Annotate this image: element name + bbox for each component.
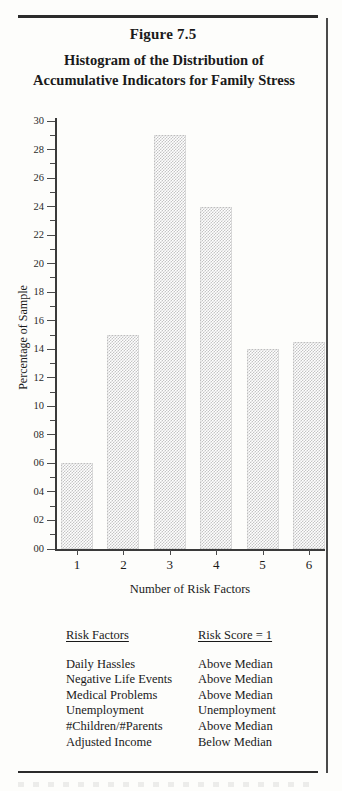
y-tick-minor	[50, 220, 55, 221]
y-tick-minor	[50, 477, 55, 478]
figure-page: Figure 7.5 Histogram of the Distribution…	[0, 0, 342, 791]
histogram-bar	[247, 349, 279, 549]
x-tick	[77, 550, 78, 555]
y-tick-major	[47, 263, 55, 264]
table-row: Adjusted IncomeBelow Median	[0, 735, 326, 751]
x-tick	[123, 550, 124, 555]
histogram-bar	[107, 335, 139, 549]
table-row: #Children/#ParentsAbove Median	[0, 719, 326, 735]
y-axis-tick-label: 30	[4, 116, 44, 126]
y-axis-tick-label: 04	[4, 487, 44, 497]
y-tick-major	[47, 434, 55, 435]
x-axis-title: Number of Risk Factors	[55, 582, 325, 597]
y-tick-major	[47, 549, 55, 550]
y-axis-tick-label: 22	[4, 230, 44, 240]
y-axis-tick-label: 26	[4, 173, 44, 183]
y-axis-line	[55, 118, 57, 550]
table-cell-risk-score: Above Median	[198, 657, 318, 673]
y-tick-major	[47, 377, 55, 378]
y-tick-major	[47, 206, 55, 207]
table-row: Medical ProblemsAbove Median	[0, 688, 326, 704]
y-tick-minor	[50, 449, 55, 450]
y-axis-tick-label: 28	[4, 145, 44, 155]
table-cell-risk-factor: Negative Life Events	[0, 672, 198, 688]
table-cell-risk-score: Below Median	[198, 735, 318, 751]
x-tick	[170, 550, 171, 555]
y-tick-minor	[50, 277, 55, 278]
y-tick-minor	[50, 506, 55, 507]
y-axis-tick-label: 24	[4, 202, 44, 212]
y-tick-major	[47, 406, 55, 407]
y-tick-minor	[50, 534, 55, 535]
y-axis-tick-label: 02	[4, 515, 44, 525]
y-tick-minor	[50, 249, 55, 250]
table-cell-risk-score: Above Median	[198, 672, 318, 688]
y-tick-minor	[50, 392, 55, 393]
x-axis-tick-label: 6	[294, 557, 324, 573]
table-body: Daily HasslesAbove MedianNegative Life E…	[0, 657, 326, 751]
y-tick-major	[47, 292, 55, 293]
y-tick-major	[47, 121, 55, 122]
table-row: UnemploymentUnemployment	[0, 703, 326, 719]
table-cell-risk-factor: Unemployment	[0, 703, 198, 719]
table-header-risk-factors: Risk Factors	[0, 628, 198, 644]
y-tick-minor	[50, 420, 55, 421]
x-axis-tick-label: 2	[108, 557, 138, 573]
y-tick-major	[47, 178, 55, 179]
table-cell-risk-score: Above Median	[198, 719, 318, 735]
histogram-bar	[293, 342, 325, 549]
y-tick-major	[47, 349, 55, 350]
x-axis-line	[55, 549, 325, 551]
y-axis-tick-label: 06	[4, 458, 44, 468]
x-tick	[263, 550, 264, 555]
x-tick	[216, 550, 217, 555]
y-tick-minor	[50, 363, 55, 364]
y-tick-major	[47, 491, 55, 492]
table-cell-risk-factor: Adjusted Income	[0, 735, 198, 751]
y-axis-title: Percentage of Sample	[16, 263, 31, 413]
y-tick-minor	[50, 306, 55, 307]
table-cell-risk-factor: Medical Problems	[0, 688, 198, 704]
y-tick-major	[47, 149, 55, 150]
risk-factor-table: Risk Factors Risk Score = 1 Daily Hassle…	[0, 628, 326, 750]
x-axis-tick-label: 1	[62, 557, 92, 573]
y-tick-minor	[50, 135, 55, 136]
x-tick	[309, 550, 310, 555]
table-cell-risk-score: Above Median	[198, 688, 318, 704]
y-tick-minor	[50, 335, 55, 336]
table-header-row: Risk Factors Risk Score = 1	[0, 628, 326, 644]
y-axis-tick-label: 00	[4, 544, 44, 554]
x-axis-tick-label: 4	[201, 557, 231, 573]
table-cell-risk-factor: Daily Hassles	[0, 657, 198, 673]
y-tick-minor	[50, 192, 55, 193]
y-tick-major	[47, 235, 55, 236]
table-row: Negative Life EventsAbove Median	[0, 672, 326, 688]
histogram-bar	[61, 463, 93, 549]
x-axis-tick-label: 3	[155, 557, 185, 573]
histogram-bar	[154, 135, 186, 549]
y-tick-major	[47, 463, 55, 464]
table-cell-risk-score: Unemployment	[198, 703, 318, 719]
y-tick-major	[47, 320, 55, 321]
y-tick-minor	[50, 163, 55, 164]
table-header-risk-score: Risk Score = 1	[198, 628, 318, 644]
y-tick-major	[47, 520, 55, 521]
histogram-bar	[200, 207, 232, 549]
x-axis-tick-label: 5	[248, 557, 278, 573]
y-axis-tick-label: 08	[4, 430, 44, 440]
table-header-spacer	[0, 644, 326, 657]
table-cell-risk-factor: #Children/#Parents	[0, 719, 198, 735]
table-row: Daily HasslesAbove Median	[0, 657, 326, 673]
